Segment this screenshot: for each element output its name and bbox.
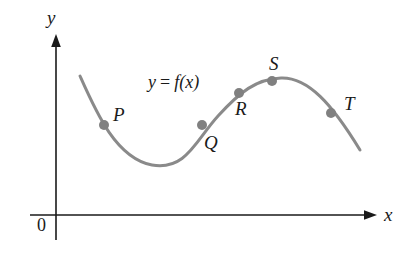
point-marker-t [326, 108, 336, 118]
point-label-p: P [113, 105, 125, 124]
curve-point-markers [99, 76, 336, 130]
point-marker-s [267, 76, 277, 86]
equation-operator: = [160, 72, 170, 92]
graph-canvas [0, 0, 402, 254]
point-label-q: Q [204, 133, 218, 152]
point-marker-p [99, 120, 109, 130]
point-label-t: T [344, 94, 355, 113]
y-axis-label: y [47, 8, 55, 27]
point-label-r: R [235, 99, 247, 118]
function-graph-figure: y x 0 y=f(x) PQRST [0, 0, 402, 254]
x-axis-arrowhead [364, 210, 377, 220]
equation-lhs: y [148, 72, 156, 92]
x-axis-label: x [384, 205, 392, 224]
function-equation-label: y=f(x) [148, 73, 199, 91]
point-marker-q [197, 120, 207, 130]
equation-rhs: f(x) [174, 72, 199, 92]
point-marker-r [234, 88, 244, 98]
point-label-s: S [269, 54, 279, 73]
y-axis-arrowhead [51, 34, 61, 47]
origin-label: 0 [37, 216, 46, 234]
